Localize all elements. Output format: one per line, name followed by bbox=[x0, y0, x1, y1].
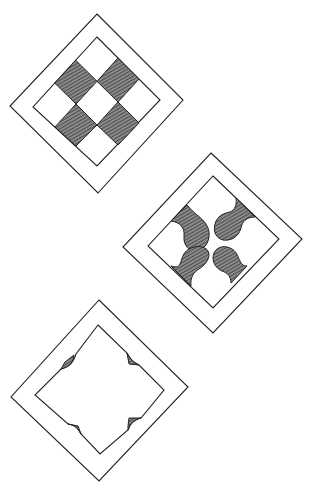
tile-2-inner-frame bbox=[148, 176, 279, 308]
tile-1-shaded-square bbox=[55, 104, 97, 146]
tile-3-corner-wedge bbox=[61, 355, 74, 369]
tile-2-lobe bbox=[171, 247, 209, 286]
tile-3-corner-wedge bbox=[127, 353, 139, 365]
tile-1-shaded-square bbox=[97, 102, 139, 145]
tile-2-lobe bbox=[214, 198, 255, 240]
tile-2-lobe bbox=[171, 205, 209, 251]
tile-3-corner-wedge bbox=[128, 418, 141, 430]
tile-3-corner-wedge bbox=[68, 424, 81, 434]
quilt-diagram bbox=[0, 0, 319, 486]
tile-1-shaded-square bbox=[55, 60, 97, 104]
tile-four-lobes bbox=[123, 153, 302, 333]
tile-nine-patch bbox=[10, 14, 183, 193]
tile-1-shaded-square bbox=[97, 58, 139, 102]
tile-curved-corners bbox=[11, 300, 188, 481]
